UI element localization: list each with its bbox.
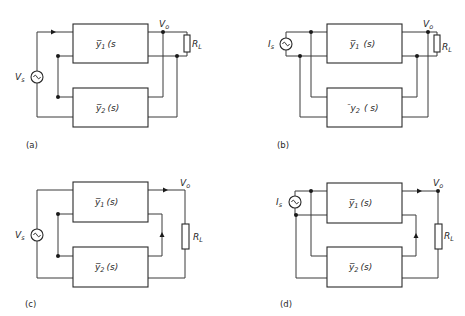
arrow-icon (51, 30, 56, 35)
load-resistor-icon (435, 224, 442, 249)
wire-loop-right (402, 215, 416, 256)
wire-out-top (402, 191, 438, 224)
output-label: Vo (180, 178, 190, 190)
wire-out-top (148, 190, 185, 224)
output-label: Vo (423, 19, 433, 31)
wire-out-bottom (148, 249, 185, 278)
wire-out-top (148, 32, 187, 35)
arrow-icon (417, 189, 422, 194)
wire-input-top (37, 190, 73, 229)
panel-d: y̅1(s) y̅2(s) Is RL Vo (d) (276, 178, 454, 309)
junction-dot (56, 254, 60, 258)
wire-link-top (311, 191, 327, 256)
wire-y2-out-bottom (402, 32, 428, 117)
wire-out-mid (402, 52, 437, 56)
junction-dot (56, 95, 60, 99)
junction-dot (309, 189, 313, 193)
arrow-icon (160, 232, 165, 237)
junction-dot (415, 54, 419, 58)
junction-dot (175, 54, 179, 58)
wire-link-bottom (300, 56, 327, 117)
circuit-figure: y̅1(s y̅2(s) Vs RL Vo (a) y̅1(s) ¯y2( s)… (0, 0, 465, 316)
source-label: Is (268, 39, 275, 51)
junction-dot (309, 30, 313, 34)
wire-y2-out-top (148, 32, 163, 97)
wire-input-top (37, 32, 73, 71)
panel-caption: (a) (26, 140, 38, 150)
wire-input-top (286, 32, 327, 38)
wire-link-top (311, 32, 327, 97)
junction-dot (298, 54, 302, 58)
panel-b: y̅1(s) ¯y2( s) Is RL Vo (b) (268, 19, 452, 150)
load-label: RL (442, 42, 452, 54)
load-resistor-icon (184, 35, 190, 52)
source-label: Is (276, 197, 283, 209)
panel-caption: (d) (280, 299, 292, 309)
output-label: Vo (433, 178, 443, 190)
load-label: RL (444, 231, 454, 243)
wire-input-bottom (37, 83, 73, 117)
wire-link-left (58, 56, 73, 97)
arrow-icon (414, 233, 419, 238)
load-label: RL (193, 232, 203, 244)
wire-y2-out-top (402, 56, 417, 97)
junction-dot (56, 54, 60, 58)
load-resistor-icon (182, 224, 189, 249)
panel-caption: (b) (277, 140, 289, 150)
panel-c: y̅1(s) y̅2(s) Vs RL Vo (c) (15, 178, 203, 309)
wire-out-mid (148, 52, 187, 56)
arrow-icon (163, 188, 168, 193)
load-label: RL (192, 39, 202, 51)
junction-dot (56, 212, 60, 216)
output-label: Vo (159, 19, 169, 31)
wire-out-bottom (402, 249, 438, 278)
wire-link-left (58, 214, 73, 256)
load-resistor-icon (434, 35, 440, 52)
panel-a: y̅1(s y̅2(s) Vs RL Vo (a) (15, 19, 202, 150)
panel-caption: (c) (25, 299, 36, 309)
wire-out-top (402, 32, 437, 35)
source-label: Vs (15, 72, 25, 84)
wire-input-bottom (286, 50, 327, 56)
wire-loop-right (148, 214, 162, 256)
junction-dot (294, 213, 298, 217)
wire-input-bottom (37, 241, 73, 278)
source-label: Vs (15, 230, 25, 242)
